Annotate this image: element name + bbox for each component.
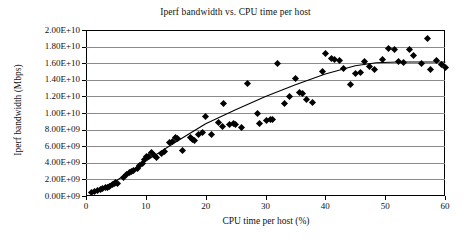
y-tick-label: 0.00E+09 — [0, 192, 80, 201]
y-tick-label: 2.00E+10 — [0, 26, 80, 35]
chart-title: Iperf bandwidth vs. CPU time per host — [0, 7, 471, 17]
x-tick-label: 50 — [365, 202, 405, 211]
x-tick-label: 0 — [66, 202, 106, 211]
x-tick-mark — [266, 196, 267, 200]
y-tick-label: 1.20E+10 — [0, 92, 80, 101]
x-axis-ticks: 0102030405060 — [86, 30, 445, 196]
x-tick-label: 20 — [186, 202, 226, 211]
y-tick-label: 1.80E+10 — [0, 42, 80, 51]
x-tick-mark — [385, 196, 386, 200]
y-tick-label: 1.00E+10 — [0, 109, 80, 118]
x-tick-mark — [325, 196, 326, 200]
x-tick-label: 60 — [425, 202, 465, 211]
y-tick-label: 8.00E+09 — [0, 125, 80, 134]
x-tick-mark — [206, 196, 207, 200]
plot-area: 0.00E+092.00E+094.00E+096.00E+098.00E+09… — [86, 30, 445, 196]
y-tick-label: 1.60E+10 — [0, 59, 80, 68]
y-tick-label: 2.00E+09 — [0, 175, 80, 184]
x-tick-mark — [445, 196, 446, 200]
x-tick-label: 40 — [305, 202, 345, 211]
x-tick-label: 10 — [126, 202, 166, 211]
y-tick-label: 6.00E+09 — [0, 142, 80, 151]
x-tick-mark — [146, 196, 147, 200]
x-axis-title: CPU time per host (%) — [86, 216, 446, 226]
y-tick-label: 1.40E+10 — [0, 75, 80, 84]
x-tick-label: 30 — [246, 202, 286, 211]
y-tick-label: 4.00E+09 — [0, 158, 80, 167]
chart-container: Iperf bandwidth vs. CPU time per host Ip… — [0, 0, 471, 243]
x-tick-mark — [86, 196, 87, 200]
